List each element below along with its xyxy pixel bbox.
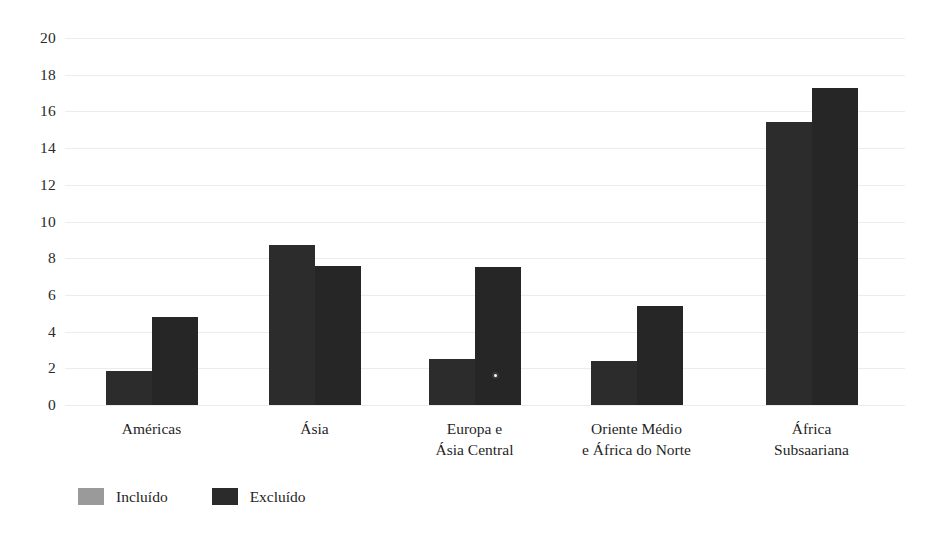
bar-incluido — [591, 361, 637, 405]
y-axis-tick-label: 14 — [18, 140, 56, 156]
y-axis-tick-label: 0 — [18, 397, 56, 413]
y-axis-tick-label: 12 — [18, 177, 56, 193]
plot-area — [65, 38, 905, 405]
gridline — [65, 75, 905, 76]
gridline — [65, 405, 905, 406]
y-axis-tick-label: 20 — [18, 30, 56, 46]
gridline — [65, 38, 905, 39]
scan-artifact-dot — [492, 372, 499, 379]
legend-item: Excluído — [212, 488, 306, 505]
y-axis-tick-label: 4 — [18, 324, 56, 340]
chart-legend: IncluídoExcluído — [78, 488, 306, 505]
bar-incluido — [429, 359, 475, 405]
y-axis-tick-label: 10 — [18, 214, 56, 230]
bar-excluido — [315, 266, 361, 405]
y-axis-tick-label: 2 — [18, 360, 56, 376]
gridline — [65, 111, 905, 112]
bar-excluido — [152, 317, 198, 405]
bar-excluido — [637, 306, 683, 405]
bar-excluido — [475, 267, 521, 405]
bar-incluido — [269, 245, 315, 405]
y-axis: 02468101214161820 — [0, 38, 56, 405]
x-axis-category-label: África Subsaariana — [702, 418, 922, 460]
bar-chart-figure: 02468101214161820 IncluídoExcluído Améri… — [0, 0, 952, 533]
y-axis-tick-label: 16 — [18, 103, 56, 119]
legend-label: Incluído — [116, 489, 168, 505]
bar-excluido — [812, 88, 858, 405]
bar-incluido — [106, 371, 152, 405]
legend-swatch-excluido — [212, 488, 238, 505]
legend-swatch-incluido — [78, 488, 104, 505]
y-axis-tick-label: 18 — [18, 67, 56, 83]
bar-incluido — [766, 122, 812, 405]
y-axis-tick-label: 6 — [18, 287, 56, 303]
y-axis-tick-label: 8 — [18, 250, 56, 266]
legend-item: Incluído — [78, 488, 168, 505]
legend-label: Excluído — [250, 489, 306, 505]
